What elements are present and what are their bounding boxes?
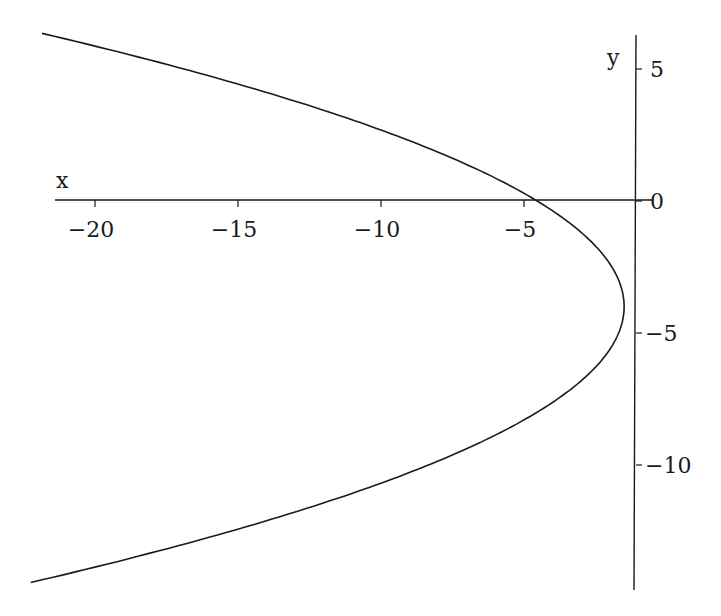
- x-tick-label: −20: [68, 217, 114, 242]
- x-ticks: −20−15−10−5: [68, 200, 536, 242]
- axes: [55, 35, 652, 590]
- y-tick-label: −10: [645, 453, 691, 478]
- y-axis: [634, 35, 636, 590]
- x-tick-label: −5: [504, 217, 536, 242]
- x-tick-label: −10: [354, 217, 400, 242]
- y-tick-label: 5: [650, 57, 664, 82]
- y-tick-label: 0: [650, 189, 664, 214]
- y-axis-label: y: [606, 45, 620, 70]
- parabola-plot: −20−15−10−5 50−5−10 x y: [0, 0, 721, 616]
- parabola-curve: [31, 33, 624, 582]
- x-axis-label: x: [56, 168, 69, 193]
- y-ticks: 50−5−10: [636, 57, 691, 478]
- x-tick-label: −15: [211, 217, 257, 242]
- y-tick-label: −5: [645, 321, 677, 346]
